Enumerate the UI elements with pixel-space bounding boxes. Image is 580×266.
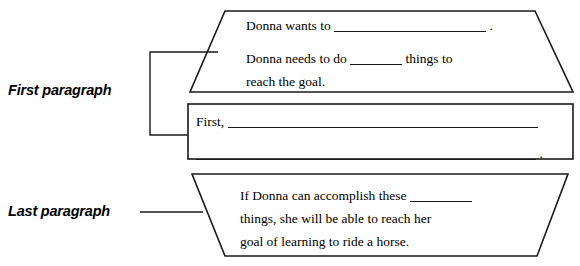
top-shape-line-1: Donna wants to . [246, 14, 546, 47]
bottom-line3-text: goal of learning to ride a horse. [240, 234, 409, 249]
bottom-shape-line-2: things, she will be able to reach her [240, 207, 540, 230]
top-line3-text: reach the goal. [246, 74, 325, 89]
middle-shape-line-2: . [196, 142, 568, 165]
middle-shape-text: First, . [196, 110, 568, 165]
bottom-line1-text-before: If Donna can accomplish these [240, 188, 406, 203]
top-line2-blank-fill-in[interactable] [350, 53, 402, 65]
middle-line2-blank-fill-in[interactable] [196, 148, 536, 160]
top-line1-blank-fill-in[interactable] [334, 20, 486, 32]
middle-shape-line-1: First, [196, 110, 568, 133]
bottom-line2-text: things, she will be able to reach her [240, 211, 431, 226]
top-shape-line-2: Donna needs to do things to [246, 47, 546, 70]
top-line1-text-before: Donna wants to [246, 18, 331, 33]
middle-line2-text-after: . [539, 146, 542, 161]
top-line2-text-before: Donna needs to do [246, 51, 347, 66]
middle-shape-spacer [196, 133, 568, 142]
top-line2-text-after: things to [406, 51, 453, 66]
top-shape-line-3: reach the goal. [246, 70, 546, 93]
bottom-line1-blank-fill-in[interactable] [410, 190, 472, 202]
bottom-shape-line-1: If Donna can accomplish these [240, 184, 540, 207]
middle-line1-blank-fill-in[interactable] [228, 116, 538, 128]
first-paragraph-label: First paragraph [8, 82, 111, 98]
bottom-shape-text: If Donna can accomplish these things, sh… [240, 184, 540, 253]
worksheet-canvas: First paragraph Last paragraph Donna wan… [0, 0, 580, 266]
top-line1-text-after: . [490, 18, 493, 33]
top-shape-text: Donna wants to . Donna needs to do thing… [246, 14, 546, 93]
middle-line1-text-before: First, [196, 114, 224, 129]
last-paragraph-label: Last paragraph [8, 203, 110, 219]
bottom-shape-line-3: goal of learning to ride a horse. [240, 230, 540, 253]
